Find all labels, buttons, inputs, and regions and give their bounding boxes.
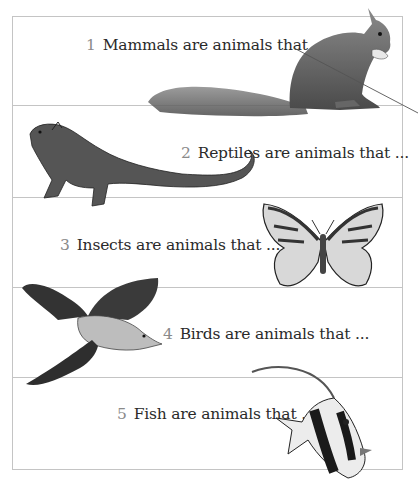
iguana-illustration: [22, 118, 262, 210]
bird-illustration: [18, 276, 168, 392]
prompt-number: 3: [60, 236, 70, 254]
prompt-number: 5: [117, 405, 127, 423]
prompt-text: Birds are animals that ...: [180, 325, 369, 343]
fish-illustration: [248, 360, 398, 486]
prompt-number: 1: [86, 36, 96, 54]
butterfly-illustration: [258, 200, 388, 296]
prompt-insects: 3Insects are animals that ...: [60, 236, 280, 254]
prompt-text: Insects are animals that ...: [77, 236, 281, 254]
prompt-birds: 4Birds are animals that ...: [163, 325, 369, 343]
squirrel-illustration: [140, 2, 400, 118]
